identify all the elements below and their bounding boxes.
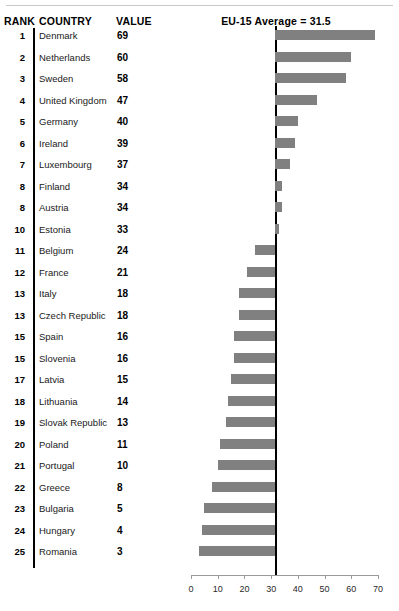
- table-row: 4United Kingdom47: [0, 93, 399, 115]
- row-value: 10: [117, 459, 128, 473]
- x-axis: 010203040506070: [0, 575, 399, 611]
- table-row: 2Netherlands60: [0, 50, 399, 72]
- value-bar: [275, 116, 298, 126]
- row-rank: 3: [0, 72, 25, 86]
- row-rank: 8: [0, 201, 25, 215]
- x-axis-tick: [378, 575, 379, 579]
- row-value: 13: [117, 416, 128, 430]
- value-bar: [199, 546, 275, 556]
- row-rank: 19: [0, 416, 25, 430]
- table-row: 17Latvia15: [0, 372, 399, 394]
- row-rank: 22: [0, 481, 25, 495]
- row-rank: 6: [0, 137, 25, 151]
- table-row: 24Hungary4: [0, 523, 399, 545]
- row-value: 18: [117, 309, 128, 323]
- row-country: United Kingdom: [39, 94, 107, 108]
- row-country: Greece: [39, 481, 70, 495]
- row-rank: 8: [0, 180, 25, 194]
- row-country: Hungary: [39, 524, 75, 538]
- row-rank: 5: [0, 115, 25, 129]
- value-bar: [275, 202, 282, 212]
- x-axis-tick: [325, 575, 326, 579]
- value-bar: [275, 224, 279, 234]
- row-rank: 15: [0, 352, 25, 366]
- table-row: 25Romania3: [0, 544, 399, 566]
- table-row: 19Slovak Republic13: [0, 415, 399, 437]
- row-country: Denmark: [39, 29, 78, 43]
- value-bar: [275, 159, 290, 169]
- table-row: 3Sweden58: [0, 71, 399, 93]
- table-row: 22Greece8: [0, 480, 399, 502]
- value-bar: [218, 460, 275, 470]
- row-country: Netherlands: [39, 51, 90, 65]
- row-value: 16: [117, 330, 128, 344]
- row-value: 15: [117, 373, 128, 387]
- top-divider: [6, 5, 393, 6]
- table-row: 10Estonia33: [0, 222, 399, 244]
- row-country: Slovenia: [39, 352, 75, 366]
- value-bar: [220, 439, 275, 449]
- row-rank: 1: [0, 29, 25, 43]
- value-bar: [255, 245, 275, 255]
- row-rank: 12: [0, 266, 25, 280]
- x-axis-tick: [218, 575, 219, 579]
- row-rank: 11: [0, 244, 25, 258]
- x-axis-tick-label: 0: [176, 583, 206, 595]
- table-row: 13Czech Republic18: [0, 308, 399, 330]
- row-rank: 10: [0, 223, 25, 237]
- row-rank: 23: [0, 502, 25, 516]
- row-value: 5: [117, 502, 123, 516]
- table-row: 8Finland34: [0, 179, 399, 201]
- row-value: 3: [117, 545, 123, 559]
- value-bar: [231, 374, 275, 384]
- row-value: 34: [117, 180, 128, 194]
- row-country: Portugal: [39, 459, 74, 473]
- table-row: 18Lithuania14: [0, 394, 399, 416]
- row-country: Ireland: [39, 137, 68, 151]
- row-country: Spain: [39, 330, 63, 344]
- row-value: 47: [117, 94, 128, 108]
- row-rank: 13: [0, 309, 25, 323]
- row-rank: 24: [0, 524, 25, 538]
- x-axis-tick-label: 50: [310, 583, 340, 595]
- table-row: 12France21: [0, 265, 399, 287]
- row-country: Italy: [39, 287, 56, 301]
- value-bar: [239, 288, 275, 298]
- row-rank: 17: [0, 373, 25, 387]
- row-rank: 2: [0, 51, 25, 65]
- value-bar: [275, 73, 346, 83]
- x-axis-tick-label: 60: [336, 583, 366, 595]
- value-bar: [239, 310, 275, 320]
- row-value: 60: [117, 51, 128, 65]
- row-country: Germany: [39, 115, 78, 129]
- row-country: Luxembourg: [39, 158, 92, 172]
- row-country: Belgium: [39, 244, 73, 258]
- row-country: Estonia: [39, 223, 71, 237]
- row-value: 37: [117, 158, 128, 172]
- x-axis-tick-label: 10: [203, 583, 233, 595]
- row-value: 69: [117, 29, 128, 43]
- row-rank: 7: [0, 158, 25, 172]
- row-country: Austria: [39, 201, 69, 215]
- x-axis-tick: [351, 575, 352, 579]
- row-value: 40: [117, 115, 128, 129]
- row-country: Lithuania: [39, 395, 78, 409]
- row-value: 24: [117, 244, 128, 258]
- row-country: Bulgaria: [39, 502, 74, 516]
- chart-title-eu15-average: EU-15 Average = 31.5: [0, 14, 399, 28]
- row-rank: 20: [0, 438, 25, 452]
- x-axis-tick-label: 30: [256, 583, 286, 595]
- x-axis-tick: [191, 575, 192, 579]
- table-row: 11Belgium24: [0, 243, 399, 265]
- row-country: Latvia: [39, 373, 64, 387]
- x-axis-tick: [244, 575, 245, 579]
- row-value: 21: [117, 266, 128, 280]
- row-value: 4: [117, 524, 123, 538]
- value-bar: [204, 503, 275, 513]
- row-country: Sweden: [39, 72, 73, 86]
- value-bar: [275, 181, 282, 191]
- table-row: 8Austria34: [0, 200, 399, 222]
- row-value: 39: [117, 137, 128, 151]
- row-value: 16: [117, 352, 128, 366]
- table-row: 13Italy18: [0, 286, 399, 308]
